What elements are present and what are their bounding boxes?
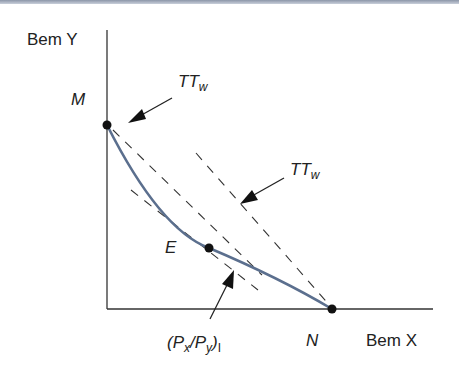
y-axis-label: Bem Y — [27, 30, 78, 50]
label-tt-right: TTw — [290, 160, 319, 182]
arrow-price — [210, 283, 228, 319]
tt-line-inner — [113, 130, 262, 275]
point-e — [205, 244, 214, 253]
arrow-price-head — [222, 270, 234, 289]
ppf-curve — [107, 125, 332, 309]
label-tt-upper: TTw — [178, 72, 207, 94]
point-n — [328, 305, 337, 314]
label-m: M — [71, 90, 85, 110]
x-axis-label: Bem X — [366, 331, 417, 351]
arrow-tt-right-head — [240, 190, 258, 204]
arrow-tt-upper-head — [128, 109, 146, 123]
point-m — [103, 121, 112, 130]
ppf-diagram — [0, 0, 459, 381]
arrow-tt-right — [252, 178, 284, 196]
label-n: N — [306, 331, 318, 351]
label-price-ratio: (Px/Py)I — [167, 333, 221, 355]
label-e: E — [165, 238, 176, 258]
